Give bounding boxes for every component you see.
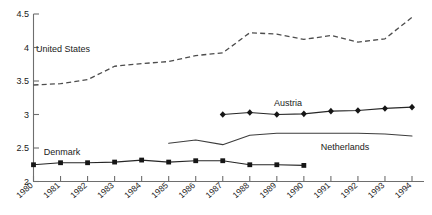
data-point-marker	[112, 160, 117, 165]
data-point-marker	[301, 111, 307, 118]
series-netherlands	[169, 133, 412, 144]
x-tick-label: 1991	[311, 180, 332, 200]
x-axis: 1980198119821983198419851986198719881989…	[14, 176, 424, 200]
y-tick-label: 2.5	[16, 143, 29, 153]
data-point-marker	[220, 111, 226, 118]
x-tick-label: 1994	[393, 180, 414, 200]
y-axis: 22.533.544.5	[16, 9, 39, 187]
x-tick-label: 1993	[366, 180, 387, 200]
y-axis-tick-labels: 22.533.544.5	[16, 9, 29, 187]
x-tick-label: 1992	[339, 180, 360, 200]
y-tick-label: 4	[24, 43, 29, 53]
x-tick-label: 1990	[284, 180, 305, 200]
line-chart: 22.533.544.5 198019811982198319841985198…	[0, 0, 432, 215]
data-point-marker	[382, 105, 388, 112]
y-tick-label: 3.5	[16, 76, 29, 86]
series-line	[169, 133, 412, 144]
data-point-marker	[301, 163, 306, 168]
data-point-marker	[193, 158, 198, 163]
x-axis-tick-labels: 1980198119821983198419851986198719881989…	[14, 180, 413, 200]
x-tick-label: 1987	[203, 180, 224, 200]
data-point-marker	[220, 158, 225, 163]
data-point-marker	[58, 160, 63, 165]
series-united-states	[34, 17, 413, 85]
x-tick-label: 1981	[41, 180, 62, 200]
x-tick-label: 1986	[176, 180, 197, 200]
data-point-marker	[85, 160, 90, 165]
series-line	[34, 17, 413, 85]
chart-canvas: 22.533.544.5 198019811982198319841985198…	[0, 0, 432, 215]
data-point-marker	[328, 108, 334, 115]
x-tick-label: 1983	[95, 180, 116, 200]
data-point-marker	[247, 162, 252, 167]
series-label-netherlands: Netherlands	[321, 142, 370, 152]
series-denmark	[31, 158, 306, 168]
y-tick-label: 4.5	[16, 9, 29, 19]
data-point-marker	[409, 104, 415, 111]
data-point-marker	[166, 160, 171, 165]
y-axis-ticks	[34, 14, 40, 182]
x-tick-label: 1984	[122, 180, 143, 200]
x-axis-ticks	[34, 176, 413, 182]
x-tick-label: 1985	[149, 180, 170, 200]
data-point-marker	[31, 162, 36, 167]
x-tick-label: 1989	[257, 180, 278, 200]
series-label-denmark: Denmark	[44, 147, 81, 157]
data-point-marker	[139, 158, 144, 163]
series-labels: United StatesAustriaNetherlandsDenmark	[36, 44, 370, 157]
data-point-marker	[274, 162, 279, 167]
series-label-united-states: United States	[36, 44, 91, 54]
y-tick-label: 3	[24, 110, 29, 120]
series-label-austria: Austria	[274, 98, 302, 108]
data-point-marker	[247, 109, 253, 116]
data-point-marker	[355, 107, 361, 114]
series-austria	[220, 104, 415, 118]
data-point-marker	[274, 111, 280, 118]
x-tick-label: 1988	[230, 180, 251, 200]
plot-area: 22.533.544.5 198019811982198319841985198…	[14, 9, 424, 200]
x-tick-label: 1982	[68, 180, 89, 200]
x-tick-label: 1980	[14, 180, 35, 200]
